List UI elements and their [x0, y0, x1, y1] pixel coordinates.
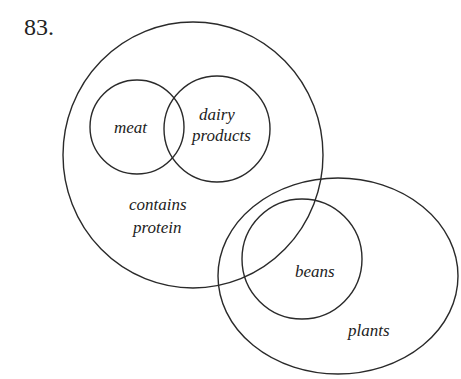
- protein-label-line1: contains: [129, 195, 187, 214]
- plants-ellipse: [218, 178, 458, 374]
- dairy-label-line1: dairy: [199, 105, 235, 124]
- beans-label: beans: [295, 262, 335, 281]
- beans-circle: [242, 199, 362, 319]
- meat-label: meat: [114, 118, 148, 137]
- plants-label: plants: [347, 321, 390, 340]
- venn-diagram: meat dairy products contains protein bea…: [0, 0, 461, 379]
- dairy-label-line2: products: [191, 126, 251, 145]
- protein-label-line2: protein: [132, 218, 181, 237]
- contains-protein-circle: [63, 22, 323, 288]
